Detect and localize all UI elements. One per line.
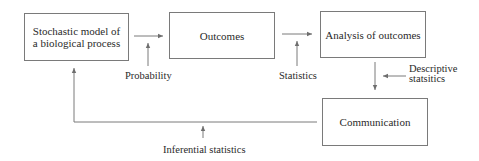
box-communication: Communication [322, 98, 428, 146]
box-analysis-of-outcomes: Analysis of outcomes [320, 11, 426, 58]
label-statistics: Statistics [279, 70, 317, 81]
label-probability: Probability [125, 70, 172, 81]
box-stochastic-model-line2: a biological process [33, 37, 120, 49]
box-outcomes-label: Outcomes [200, 30, 245, 42]
box-stochastic-model: Stochastic model of a biological process [24, 13, 129, 61]
box-analysis-label: Analysis of outcomes [325, 29, 420, 41]
box-communication-label: Communication [340, 116, 411, 128]
label-descriptive-line2: statsitics [409, 74, 457, 84]
label-inferential-statistics: Inferential statistics [163, 144, 246, 155]
box-outcomes: Outcomes [169, 12, 275, 59]
label-descriptive-statistics: Descriptive statsitics [409, 64, 457, 84]
box-stochastic-model-line1: Stochastic model of [33, 25, 120, 37]
